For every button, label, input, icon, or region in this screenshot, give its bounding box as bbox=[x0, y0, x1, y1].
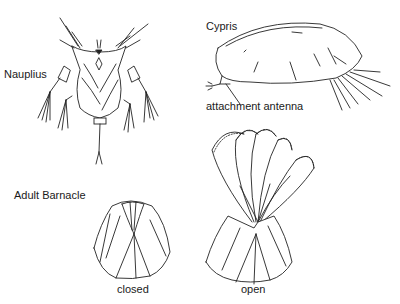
adult-barnacle-label: Adult Barnacle bbox=[14, 189, 86, 201]
cypris-figure bbox=[206, 23, 390, 110]
adult-barnacle-open-figure bbox=[206, 129, 314, 284]
cypris-label: Cypris bbox=[206, 20, 237, 32]
closed-label: closed bbox=[117, 283, 149, 295]
open-label: open bbox=[241, 283, 265, 295]
diagram-canvas bbox=[0, 0, 400, 304]
attachment-antenna-label: attachment antenna bbox=[206, 100, 303, 112]
nauplius-label: Nauplius bbox=[4, 68, 47, 80]
nauplius-figure bbox=[38, 18, 158, 164]
adult-barnacle-closed-figure bbox=[94, 201, 170, 279]
